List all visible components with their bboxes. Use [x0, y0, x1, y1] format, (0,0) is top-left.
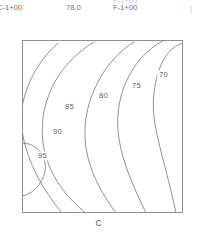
contour-line	[85, 42, 134, 213]
header-left-station-label: C-1+00	[0, 3, 22, 12]
plot-frame-border	[23, 41, 183, 213]
header-strip: F-1+00 C-1+00 78.0 F-1+00 |	[0, 0, 197, 34]
contour-label-group: 707580859095	[37, 70, 171, 161]
contour-line	[118, 41, 163, 213]
contour-line	[153, 43, 183, 213]
contour-plot-svg: 707580859095	[22, 40, 183, 213]
contour-line-group	[22, 41, 183, 213]
contour-value-label: 90	[53, 127, 62, 136]
x-axis-caption: C	[0, 219, 197, 228]
header-edge-mark: |	[190, 4, 192, 13]
contour-line	[42, 42, 94, 213]
contour-value-label: 75	[132, 81, 141, 90]
contour-value-label: 70	[159, 70, 168, 79]
header-center-value-label: 78.0	[66, 3, 81, 12]
contour-plot-area: 707580859095	[22, 40, 183, 213]
contour-value-label: 95	[38, 151, 47, 160]
contour-plot-page: F-1+00 C-1+00 78.0 F-1+00 | 707580859095	[0, 0, 197, 235]
header-right-station-label: F-1+00	[113, 3, 138, 12]
contour-value-label: 85	[65, 102, 74, 111]
contour-value-label: 80	[99, 91, 108, 100]
